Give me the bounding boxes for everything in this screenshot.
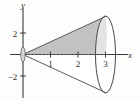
y-tick-label-minus-2: −2 (8, 72, 18, 82)
cone-apex-ellipse (21, 47, 25, 62)
cone-diagram-svg: x y 1 2 3 2 −2 (0, 0, 140, 100)
x-tick-label-1: 1 (48, 59, 53, 69)
y-tick-label-2: 2 (13, 29, 18, 39)
x-tick-label-3: 3 (103, 59, 108, 69)
x-tick-label-2: 2 (76, 59, 81, 69)
x-axis-label: x (127, 50, 132, 60)
cone-figure: x y 1 2 3 2 −2 (0, 0, 140, 100)
y-axis-label: y (20, 0, 25, 10)
